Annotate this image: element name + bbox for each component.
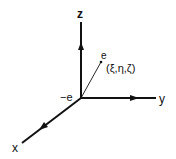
y-axis: y	[81, 92, 165, 106]
x-axis-label: x	[12, 141, 18, 155]
coordinate-diagram: z y x e (ξ,η,ζ) −e	[0, 0, 176, 159]
point-vector	[81, 61, 102, 98]
point-e-dot	[100, 61, 103, 64]
origin-label: −e	[60, 91, 73, 103]
point-label: e	[101, 50, 107, 61]
y-axis-label: y	[159, 92, 165, 106]
x-axis: x	[12, 98, 81, 155]
z-axis: z	[77, 7, 84, 98]
z-axis-arrow-icon	[78, 42, 84, 50]
z-axis-label: z	[77, 7, 83, 21]
y-axis-arrow-icon	[130, 95, 139, 101]
point-coords-label: (ξ,η,ζ)	[106, 62, 135, 74]
